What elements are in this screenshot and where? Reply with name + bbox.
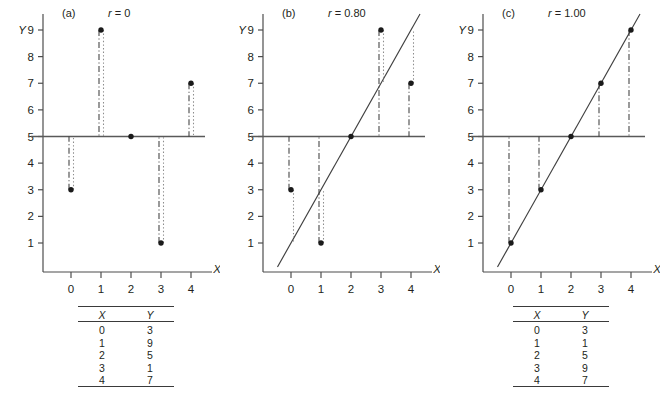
data-point xyxy=(538,187,543,192)
svg-text:r = 0: r = 0 xyxy=(108,7,130,19)
svg-text:Y: Y xyxy=(458,24,467,36)
svg-text:4: 4 xyxy=(248,157,255,169)
data-point xyxy=(348,134,353,139)
svg-text:(a): (a) xyxy=(62,7,75,19)
svg-text:8: 8 xyxy=(468,51,474,63)
data-point xyxy=(408,81,413,86)
svg-text:6: 6 xyxy=(28,104,34,116)
svg-text:0: 0 xyxy=(288,283,294,295)
svg-text:4: 4 xyxy=(188,283,195,295)
svg-text:3: 3 xyxy=(158,283,164,295)
cell-x: 4 xyxy=(78,374,126,387)
svg-text:r = 1.00: r = 1.00 xyxy=(548,7,586,19)
svg-text:8: 8 xyxy=(28,51,34,63)
svg-text:3: 3 xyxy=(28,184,34,196)
svg-text:1: 1 xyxy=(538,283,544,295)
column-header-x: X xyxy=(78,309,126,322)
data-point xyxy=(378,27,383,32)
table-row: 31 xyxy=(78,362,174,374)
data-point xyxy=(568,134,573,139)
table-rule-bottom xyxy=(78,387,174,390)
svg-text:4: 4 xyxy=(28,157,35,169)
data-point xyxy=(288,187,293,192)
column-header-y: Y xyxy=(126,309,174,322)
svg-text:r = 0.80: r = 0.80 xyxy=(328,7,366,19)
cell-y: 5 xyxy=(126,349,174,361)
panel-b: (b)r = 0.8098765432101234YX XY0311253947 xyxy=(220,0,440,400)
svg-text:3: 3 xyxy=(468,184,474,196)
table-row: 47 xyxy=(78,374,174,387)
svg-text:3: 3 xyxy=(598,283,604,295)
svg-text:4: 4 xyxy=(468,157,475,169)
data-point xyxy=(158,240,163,245)
cell-x: 2 xyxy=(78,349,126,361)
svg-text:1: 1 xyxy=(468,237,474,249)
svg-text:4: 4 xyxy=(628,283,635,295)
svg-text:Y: Y xyxy=(238,24,247,36)
cell-y: 1 xyxy=(126,362,174,374)
cell-x: 3 xyxy=(78,362,126,374)
svg-text:0: 0 xyxy=(68,283,74,295)
svg-text:(c): (c) xyxy=(502,7,515,19)
table-header-row: XY xyxy=(78,309,174,322)
svg-text:Y: Y xyxy=(18,24,27,36)
table-row: 25 xyxy=(78,349,174,361)
svg-text:(b): (b) xyxy=(282,7,295,19)
data-point xyxy=(508,240,513,245)
svg-text:3: 3 xyxy=(248,184,254,196)
table-row: 19 xyxy=(78,337,174,349)
svg-text:1: 1 xyxy=(248,237,254,249)
svg-text:0: 0 xyxy=(508,283,514,295)
panel-c: (c)r = 1.0098765432101234YX XY0113253749 xyxy=(440,0,660,400)
svg-text:3: 3 xyxy=(378,283,384,295)
data-point xyxy=(68,187,73,192)
svg-text:9: 9 xyxy=(248,24,254,36)
cell-x: 0 xyxy=(78,324,126,336)
cell-x: 1 xyxy=(78,337,126,349)
correlation-figure: (a)r = 098765432101234YX XY0319253147 (b… xyxy=(0,0,660,400)
svg-text:7: 7 xyxy=(28,77,34,89)
cell-y: 3 xyxy=(126,324,174,336)
svg-text:X: X xyxy=(432,263,440,275)
svg-text:1: 1 xyxy=(28,237,34,249)
svg-text:2: 2 xyxy=(568,283,574,295)
data-point xyxy=(98,27,103,32)
table-row: 03 xyxy=(78,324,174,336)
svg-text:7: 7 xyxy=(248,77,254,89)
panel-a: (a)r = 098765432101234YX XY0319253147 xyxy=(0,0,220,400)
svg-text:1: 1 xyxy=(318,283,324,295)
scatter-plot-c: (c)r = 1.0098765432101234YX xyxy=(440,0,660,300)
scatter-plot-b: (b)r = 0.8098765432101234YX xyxy=(220,0,440,300)
svg-text:X: X xyxy=(652,263,660,275)
svg-text:9: 9 xyxy=(468,24,474,36)
svg-text:6: 6 xyxy=(468,104,474,116)
cell-y: 9 xyxy=(126,337,174,349)
data-point xyxy=(128,134,133,139)
svg-text:X: X xyxy=(212,263,220,275)
svg-text:6: 6 xyxy=(248,104,254,116)
svg-text:8: 8 xyxy=(248,51,254,63)
data-table-a: XY0319253147 xyxy=(78,306,174,389)
svg-text:2: 2 xyxy=(468,210,474,222)
data-point xyxy=(188,81,193,86)
svg-text:2: 2 xyxy=(348,283,354,295)
svg-text:9: 9 xyxy=(28,24,34,36)
svg-text:4: 4 xyxy=(408,283,415,295)
svg-text:1: 1 xyxy=(98,283,104,295)
svg-text:2: 2 xyxy=(128,283,134,295)
svg-text:2: 2 xyxy=(28,210,34,222)
data-point xyxy=(318,240,323,245)
svg-text:2: 2 xyxy=(248,210,254,222)
data-point xyxy=(628,27,633,32)
cell-y: 7 xyxy=(126,374,174,387)
svg-text:7: 7 xyxy=(468,77,474,89)
data-point xyxy=(598,81,603,86)
scatter-plot-a: (a)r = 098765432101234YX xyxy=(0,0,220,300)
